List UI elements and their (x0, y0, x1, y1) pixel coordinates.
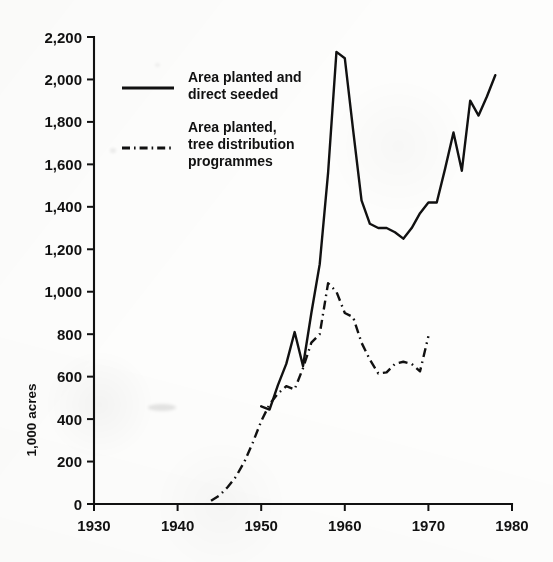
y-axis-title: 1,000 acres (24, 384, 39, 457)
x-tick-label: 1950 (245, 517, 278, 534)
x-tick-label: 1980 (495, 517, 528, 534)
legend-label-dashdot-line-1: Area planted, (188, 119, 277, 135)
x-tick-label: 1960 (328, 517, 361, 534)
y-tick-label: 2,000 (44, 71, 82, 88)
x-tick-label: 1930 (77, 517, 110, 534)
y-tick-label: 200 (57, 453, 82, 470)
y-tick-label: 0 (74, 496, 82, 513)
y-tick-label: 1,800 (44, 113, 82, 130)
legend-label-solid-line-1: Area planted and (188, 69, 302, 85)
legend-label-dashdot-line-2: tree distribution (188, 136, 295, 152)
x-tick-label: 1940 (161, 517, 194, 534)
axis-frame (94, 37, 512, 504)
y-tick-label: 400 (57, 411, 82, 428)
line-chart-canvas: 02004006008001,0001,2001,4001,6001,8002,… (0, 0, 553, 562)
y-axis-tick-labels: 02004006008001,0001,2001,4001,6001,8002,… (44, 29, 82, 513)
series-area-planted-and-direct-seeded (261, 52, 495, 410)
series-area-planted-tree-distribution-programmes (211, 283, 428, 501)
x-axis-tick-labels: 193019401950196019701980 (77, 517, 528, 534)
x-tick-label: 1970 (412, 517, 445, 534)
y-tick-label: 1,000 (44, 283, 82, 300)
y-tick-label: 2,200 (44, 29, 82, 46)
y-tick-label: 1,200 (44, 241, 82, 258)
legend-label-solid-line-2: direct seeded (188, 86, 278, 102)
chart-figure: 02004006008001,0001,2001,4001,6001,8002,… (0, 0, 553, 562)
chart-legend: Area planted and direct seeded Area plan… (122, 69, 302, 169)
y-tick-label: 1,600 (44, 156, 82, 173)
y-tick-label: 1,400 (44, 198, 82, 215)
y-tick-label: 800 (57, 326, 82, 343)
legend-label-dashdot-line-3: programmes (188, 153, 273, 169)
y-tick-label: 600 (57, 368, 82, 385)
